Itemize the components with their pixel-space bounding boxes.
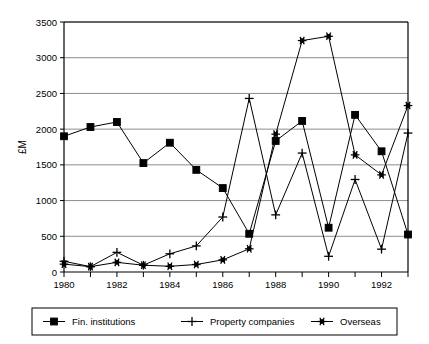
line-chart: 0500100015002000250030003500198019821984…: [0, 0, 429, 344]
data-point: [219, 185, 226, 192]
series-fin-institutions: [61, 111, 412, 237]
data-point: [325, 224, 332, 231]
data-point: [246, 230, 253, 237]
legend-label: Fin. institutions: [72, 316, 136, 327]
y-axis-tick-label: 500: [41, 231, 57, 242]
x-axis-tick-label: 1980: [53, 279, 74, 290]
y-axis-title: £M: [17, 140, 28, 154]
y-axis-tick-label: 1000: [36, 195, 57, 206]
data-point: [61, 133, 68, 140]
data-point: [378, 148, 385, 155]
series-line: [64, 115, 408, 235]
series-overseas: [60, 33, 413, 271]
data-point: [405, 231, 412, 238]
data-point: [299, 118, 306, 125]
legend-marker-square: [51, 318, 58, 325]
y-axis-tick-label: 3500: [36, 17, 57, 28]
chart-container: 0500100015002000250030003500198019821984…: [0, 0, 429, 344]
data-point: [114, 119, 121, 126]
x-axis-tick-label: 1990: [318, 279, 339, 290]
x-axis-tick-label: 1992: [371, 279, 392, 290]
legend-label: Property companies: [210, 316, 295, 327]
y-axis-tick-label: 2000: [36, 124, 57, 135]
data-point: [352, 111, 359, 118]
gridlines-group: 0500100015002000250030003500: [36, 17, 408, 278]
y-axis-tick-label: 3000: [36, 52, 57, 63]
legend: Fin. institutionsProperty companiesOvers…: [32, 308, 397, 335]
y-axis-tick-label: 2500: [36, 88, 57, 99]
x-axis-tick-label: 1988: [265, 279, 286, 290]
y-axis-tick-label: 1500: [36, 159, 57, 170]
data-point: [193, 166, 200, 173]
y-axis-tick-label: 0: [52, 267, 57, 278]
data-point: [166, 139, 173, 146]
x-axis-tick-label: 1982: [106, 279, 127, 290]
data-point: [140, 160, 147, 167]
x-axis-tick-label: 1984: [159, 279, 180, 290]
legend-label: Overseas: [340, 316, 381, 327]
data-point: [87, 124, 94, 131]
x-axis-tick-label: 1986: [212, 279, 233, 290]
